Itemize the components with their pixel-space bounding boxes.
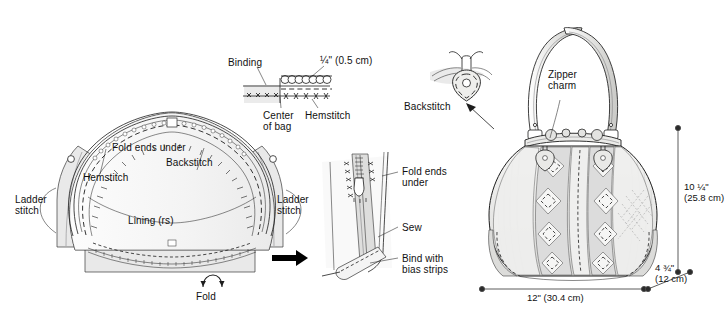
backstitch-inset — [430, 52, 494, 129]
dimension-depth: 4 ¾" (12 cm) — [655, 262, 687, 284]
figure-finished-bag — [430, 28, 693, 292]
label-seam-allowance-measurement: ¼" (0.5 cm) — [320, 55, 372, 67]
label-sew: Sew — [402, 222, 422, 234]
binding-loop-row — [281, 76, 331, 84]
label-backstitch-left: Backstitch — [166, 157, 213, 169]
label-fold-ends-under: Fold ends under — [112, 142, 186, 154]
figure-left-lining-assembly — [40, 112, 308, 287]
diagram-sheet: Fold ends under Backstitch Hemstitch Lad… — [0, 0, 727, 311]
label-backstitch-charm: Backstitch — [404, 101, 451, 113]
figure-binding-detail — [243, 66, 332, 108]
label-zipper-charm: Zipper charm — [548, 69, 577, 91]
label-hemstitch-left: Hemstitch — [83, 172, 128, 184]
frame-hinge-knob-right — [270, 156, 277, 163]
label-bind-with-bias-strips: Bind with bias strips — [402, 253, 448, 275]
label-lining-rs: Lining (rs) — [128, 215, 174, 227]
diagram-artboard — [0, 0, 727, 311]
callout-arrow-icon — [466, 103, 494, 129]
step-arrow-icon — [272, 250, 308, 266]
frame-hinge-knob-left — [68, 156, 75, 163]
figure-zipper-detail — [322, 152, 398, 280]
dimension-width: 12" (30.4 cm) — [527, 292, 584, 303]
label-ladder-stitch-left: Ladder stitch — [15, 194, 47, 216]
bag-body — [489, 146, 658, 281]
label-hemstitch-binding: Hemstitch — [305, 110, 350, 122]
label-center-of-bag: Center of bag — [263, 110, 294, 132]
fold-arrow-icon — [201, 275, 225, 287]
label-ladder-stitch-right: Ladder stitch — [277, 194, 309, 216]
frame-center-clasp — [167, 118, 177, 127]
label-fold: Fold — [196, 291, 216, 303]
label-fold-ends-under-zipper: Fold ends under — [402, 166, 447, 188]
dimension-height: 10 ¼" (25.8 cm) — [684, 181, 724, 203]
zipper-pull — [354, 178, 364, 196]
label-binding: Binding — [228, 57, 262, 69]
